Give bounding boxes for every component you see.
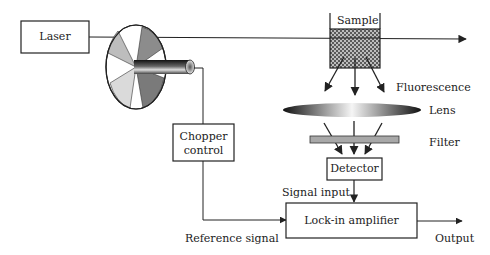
filter-plate (310, 136, 399, 143)
signal-input-label: Signal input (282, 187, 350, 198)
sample-label: Sample (337, 15, 379, 26)
lens-label: Lens (429, 105, 456, 116)
chopper-connector-line (194, 68, 203, 124)
fluorescence-label: Fluorescence (396, 82, 471, 93)
chopper-control-label-line2: control (173, 145, 234, 156)
chopper-rod-icon (134, 60, 195, 74)
lockin-amplifier-label: Lock-in amplifier (286, 215, 417, 226)
laser-label: Laser (21, 31, 89, 42)
lens-icon (283, 103, 421, 117)
output-label: Output (435, 233, 474, 244)
filter-label: Filter (429, 137, 460, 148)
detector-label: Detector (327, 163, 382, 174)
chopper-control-label-line1: Chopper (173, 131, 234, 142)
reference-signal-line (203, 161, 286, 220)
reference-signal-label: Reference signal (185, 233, 279, 244)
